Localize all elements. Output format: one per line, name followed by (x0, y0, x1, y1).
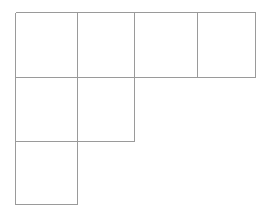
grid-line-group (16, 13, 256, 205)
polyomino-figure (0, 0, 273, 220)
figure-canvas (0, 0, 273, 220)
